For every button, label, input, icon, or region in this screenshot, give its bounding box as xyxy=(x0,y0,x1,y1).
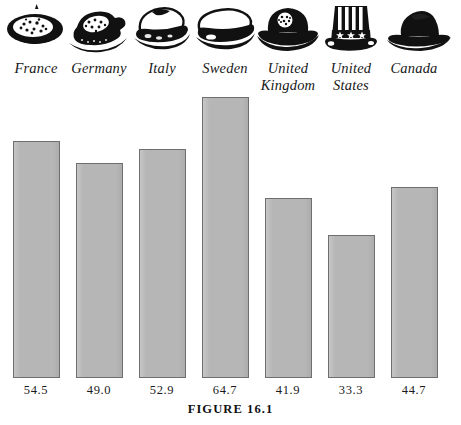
figure-caption: FIGURE 16.1 xyxy=(0,402,461,417)
figure-16-1: France Germany Italy Sweden United Kingd… xyxy=(0,0,461,425)
bar-united-states xyxy=(328,235,375,378)
bar-chart-plot-area xyxy=(0,0,461,425)
bar-united-kingdom xyxy=(265,198,312,378)
bar-germany xyxy=(76,163,123,378)
bar-sweden xyxy=(202,97,249,378)
bar-canada xyxy=(391,187,438,378)
bar-italy xyxy=(139,149,186,378)
value-label-canada: 44.7 xyxy=(372,383,456,398)
bar-france xyxy=(13,141,60,378)
